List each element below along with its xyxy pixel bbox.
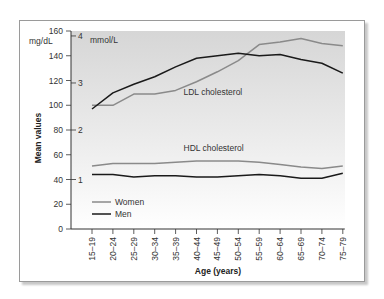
y-axis-title: Mean values — [33, 112, 43, 163]
x-tick-label: 60–64 — [275, 237, 285, 261]
legend-label-men: Men — [115, 209, 132, 219]
x-tick-label: 30–34 — [150, 237, 160, 261]
x-tick-label: 55–59 — [254, 237, 264, 261]
y-tick-label: 160 — [49, 26, 63, 36]
cholesterol-line-chart: 0204060801001201401601234 15–1920–2425–2… — [0, 0, 384, 299]
x-tick-label: 50–54 — [233, 237, 243, 261]
y-tick-label: 120 — [49, 76, 63, 86]
y-tick-label: 0 — [58, 224, 63, 234]
legend-label-women: Women — [115, 197, 144, 207]
y-unit-secondary: mmol/L — [90, 35, 118, 45]
y-unit-primary: mg/dL — [29, 36, 53, 46]
x-tick-label: 15–19 — [87, 237, 97, 261]
ldl-label: LDL cholesterol — [184, 87, 243, 97]
y-tick-label: 140 — [49, 51, 63, 61]
y-tick-label: 80 — [54, 125, 64, 135]
y-tick-label: 40 — [54, 175, 64, 185]
x-tick-label: 75–79 — [338, 237, 348, 261]
y-secondary-tick-label: 2 — [78, 125, 83, 135]
y-tick-label: 60 — [54, 150, 64, 160]
y-tick-label: 20 — [54, 199, 64, 209]
y-secondary-tick-label: 3 — [78, 78, 83, 88]
x-tick-label: 35–39 — [171, 237, 181, 261]
y-secondary-tick-label: 4 — [78, 31, 83, 41]
x-tick-label: 70–74 — [317, 237, 327, 261]
x-axis: 15–1920–2425–2930–3435–3940–4445–4950–54… — [71, 229, 348, 261]
hdl-label: HDL cholesterol — [184, 143, 244, 153]
x-tick-label: 25–29 — [129, 237, 139, 261]
x-tick-label: 65–69 — [296, 237, 306, 261]
x-axis-title: Age (years) — [195, 266, 241, 276]
x-tick-label: 45–49 — [212, 237, 222, 261]
x-tick-label: 40–44 — [192, 237, 202, 261]
x-tick-label: 20–24 — [108, 237, 118, 261]
y-secondary-tick-label: 1 — [78, 175, 83, 185]
y-tick-label: 100 — [49, 100, 63, 110]
